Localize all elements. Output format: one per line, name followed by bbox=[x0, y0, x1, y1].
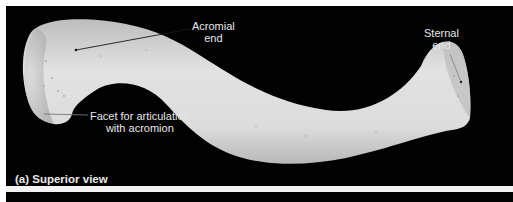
label-acromial-end-line2: end bbox=[192, 32, 235, 44]
figure-panel-superior-view: Acromial end Sternal end Facet for artic… bbox=[6, 6, 513, 186]
acromial-end-pointer-dot bbox=[75, 49, 78, 52]
label-acromial-end-line1: Acromial bbox=[192, 20, 235, 32]
figure-panel-next bbox=[6, 192, 513, 202]
label-facet-for-articulation: Facet for articulation with acromion bbox=[90, 110, 190, 134]
label-sternal-end-line2: end bbox=[424, 39, 459, 51]
figure-caption: (a) Superior view bbox=[15, 173, 108, 185]
label-acromial-end: Acromial end bbox=[192, 20, 235, 44]
label-facet-line2: with acromion bbox=[90, 122, 190, 134]
label-facet-line1: Facet for articulation bbox=[90, 110, 190, 122]
sternal-end-pointer-dot bbox=[460, 81, 462, 83]
label-sternal-end-line1: Sternal bbox=[424, 27, 459, 39]
label-sternal-end: Sternal end bbox=[424, 27, 459, 51]
